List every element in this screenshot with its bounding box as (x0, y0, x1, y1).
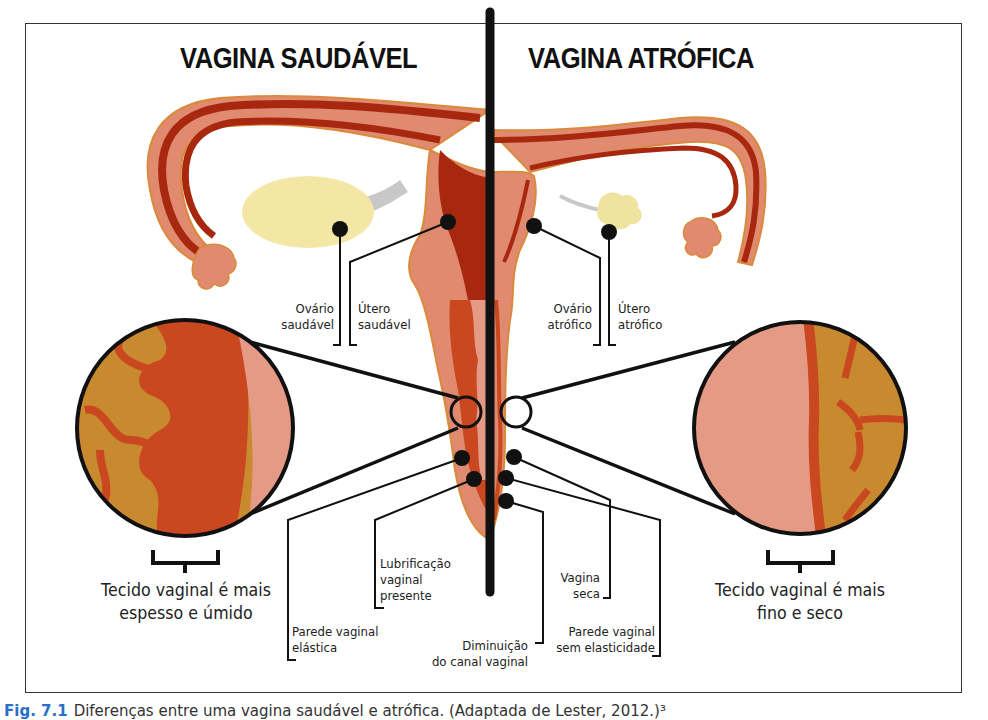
label-parede-elastica: Parede vaginal elástica (292, 624, 400, 656)
label-tecido-saudavel: Tecido vaginal é mais espesso e úmido (82, 578, 290, 624)
figure-caption: Fig. 7.1Diferenças entre uma vagina saud… (4, 702, 666, 720)
label-vagina-seca: Vagina seca (546, 570, 600, 602)
label-diminuicao-canal: Diminuição do canal vaginal (422, 638, 528, 670)
atrophic-tissue-magnifier (501, 318, 915, 545)
label-utero-atrofico: Útero atrófico (618, 301, 681, 333)
label-utero-saudavel: Útero saudável (358, 301, 421, 333)
healthy-tissue-magnifier (75, 318, 481, 545)
label-ovario-saudavel: Ovário saudável (276, 301, 334, 333)
figure-number: Fig. 7.1 (4, 702, 68, 720)
label-ovario-atrofico: Ovário atrófico (536, 301, 592, 333)
label-parede-sem-elasticidade: Parede vaginal sem elasticidade (552, 624, 656, 656)
label-lubrificacao: Lubrificação vaginal presente (380, 556, 470, 604)
label-tecido-atrofico: Tecido vaginal é mais fino e seco (696, 578, 904, 624)
caption-text: Diferenças entre uma vagina saudável e a… (74, 702, 666, 720)
